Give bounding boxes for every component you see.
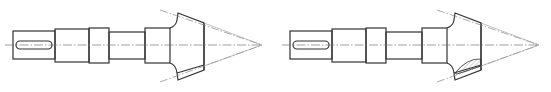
drawing-canvas	[0, 0, 551, 92]
view-right	[282, 10, 539, 82]
shaft-drawings	[0, 0, 551, 92]
view-left	[5, 10, 262, 82]
